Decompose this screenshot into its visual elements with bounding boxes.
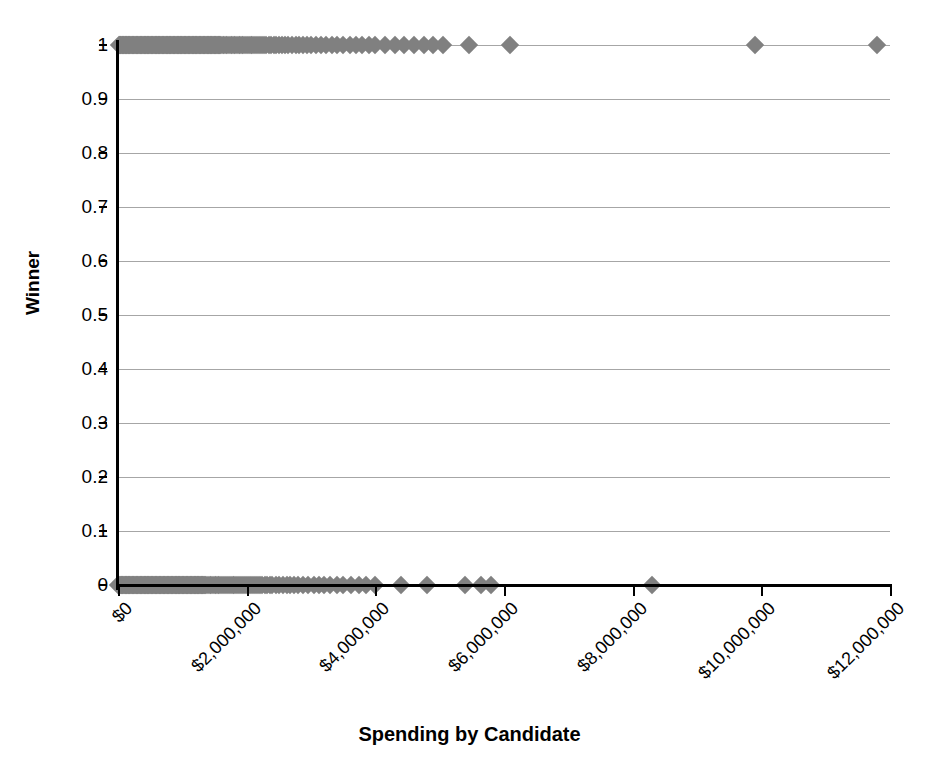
- gridline: [118, 99, 890, 100]
- x-tick-mark: [761, 587, 763, 596]
- y-tick-mark: [99, 368, 107, 370]
- y-tick-mark: [99, 422, 107, 424]
- gridline: [118, 261, 890, 262]
- x-tick-mark: [633, 587, 635, 596]
- data-point: [501, 36, 519, 54]
- data-point: [746, 36, 764, 54]
- scatter-chart: 00.10.20.30.40.50.60.70.80.91 $0$2,000,0…: [0, 0, 939, 769]
- x-tick-mark: [504, 587, 506, 596]
- gridline: [118, 423, 890, 424]
- y-tick-mark: [99, 260, 107, 262]
- y-axis-tick-labels: 00.10.20.30.40.50.60.70.80.91: [0, 45, 108, 585]
- plot-area: [118, 45, 890, 585]
- x-tick-mark: [375, 587, 377, 596]
- y-tick-mark: [99, 44, 107, 46]
- gridline: [118, 207, 890, 208]
- y-axis-title: Winner: [22, 251, 44, 315]
- x-tick-label: $8,000,000: [573, 598, 652, 677]
- x-tick-label: $6,000,000: [444, 598, 523, 677]
- gridline: [118, 153, 890, 154]
- gridline: [118, 477, 890, 478]
- x-tick-mark: [247, 587, 249, 596]
- x-tick-mark: [118, 587, 120, 596]
- x-tick-label: $0: [108, 598, 137, 627]
- x-axis-tick-labels: $0$2,000,000$4,000,000$6,000,000$8,000,0…: [0, 598, 939, 708]
- y-tick-mark: [99, 530, 107, 532]
- data-point: [459, 36, 477, 54]
- y-axis-line: [116, 40, 119, 590]
- x-tick-label: $4,000,000: [316, 598, 395, 677]
- x-tick-label: $2,000,000: [187, 598, 266, 677]
- y-tick-mark: [99, 476, 107, 478]
- x-tick-label: $10,000,000: [695, 598, 781, 684]
- x-tick-label: $12,000,000: [823, 598, 909, 684]
- y-tick-mark: [99, 314, 107, 316]
- x-axis-title: Spending by Candidate: [0, 723, 939, 746]
- y-tick-mark: [99, 206, 107, 208]
- y-tick-mark: [99, 584, 107, 586]
- y-tick-mark: [99, 98, 107, 100]
- gridline: [118, 531, 890, 532]
- data-point: [868, 36, 886, 54]
- y-tick-mark: [99, 152, 107, 154]
- x-tick-mark: [890, 587, 892, 596]
- gridline: [118, 369, 890, 370]
- gridline: [118, 315, 890, 316]
